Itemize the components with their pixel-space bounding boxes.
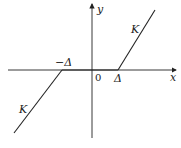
dead-zone-diagram: y x 0 Δ −Δ K K xyxy=(0,0,181,148)
x-axis-label: x xyxy=(170,71,177,84)
upper-slope-line xyxy=(118,10,155,70)
upper-slope-label: K xyxy=(130,23,140,36)
origin-label: 0 xyxy=(95,72,101,83)
positive-delta-label: Δ xyxy=(113,72,122,85)
lower-slope-line xyxy=(14,70,62,133)
y-axis-label: y xyxy=(96,3,104,16)
lower-slope-label: K xyxy=(18,103,28,116)
negative-delta-label: −Δ xyxy=(55,56,72,69)
